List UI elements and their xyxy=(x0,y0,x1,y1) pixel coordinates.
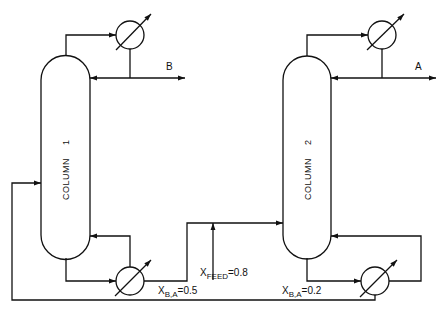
reboiler-1 xyxy=(115,260,151,296)
overhead-line-1 xyxy=(66,35,116,56)
condenser-1 xyxy=(116,14,151,50)
column-1: COLUMN 1 xyxy=(41,55,90,259)
bottoms-1-composition-label: XB,A=0.5 xyxy=(158,285,198,299)
bottoms-line-1 xyxy=(66,258,116,281)
overhead-line-2 xyxy=(307,35,368,56)
boilup-line-1 xyxy=(90,236,130,267)
condenser-2 xyxy=(367,14,404,50)
reboiler-2 xyxy=(360,260,397,297)
column-2: COLUMN 2 xyxy=(283,56,331,259)
feed-composition-label: XFEED=0.8 xyxy=(200,267,248,281)
product-b-label: B xyxy=(166,61,173,72)
product-a-label: A xyxy=(415,61,422,72)
bottoms-2-composition-label: XB,A=0.2 xyxy=(282,285,322,299)
bottoms-line-2 xyxy=(307,258,361,281)
process-flow-diagram: COLUMN 1 B XFEED=0.8 XB,A=0.5 COLUMN 2 xyxy=(0,0,446,316)
